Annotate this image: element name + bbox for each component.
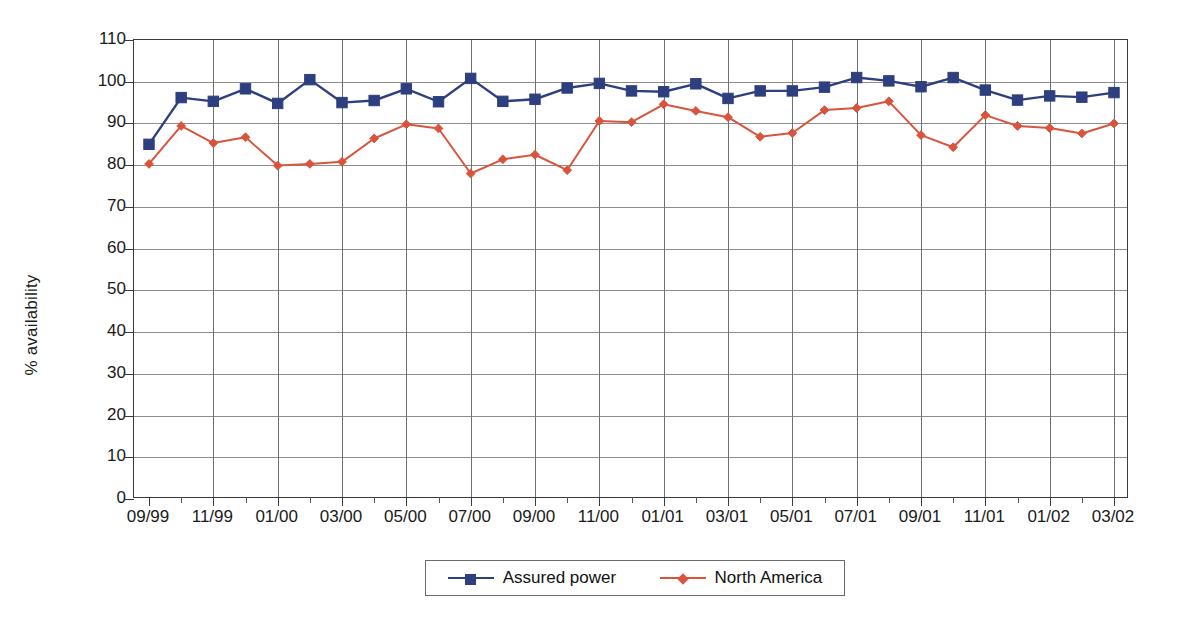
x-axis-tick-labels: 09/9911/9901/0003/0005/0007/0009/0011/00… [0,507,1177,537]
chart-legend: Assured power North America [425,560,845,596]
x-axis-tick-label: 01/01 [641,507,684,527]
data-point-marker [531,150,540,159]
y-axis-title: % availability [22,25,42,225]
data-point-marker [176,92,186,102]
data-point-marker [691,79,701,89]
data-point-marker [980,85,990,95]
y-axis-tick-label: 20 [107,405,126,425]
y-axis-title-label: % availability [22,225,42,425]
y-axis-tick-mark [125,249,134,250]
x-axis-tick-label: 03/01 [706,507,749,527]
x-axis-tick-label: 07/01 [834,507,877,527]
data-point-marker [1045,124,1054,133]
data-point-marker [626,86,636,96]
y-axis-tick-label: 10 [107,446,126,466]
y-axis-tick-mark [125,499,134,500]
data-point-marker [498,155,507,164]
data-point-marker [272,98,282,108]
data-point-marker [627,118,636,127]
x-axis-tick-label: 11/99 [192,507,233,527]
x-axis-tick-label: 11/01 [964,507,1005,527]
y-axis-tick-label: 110 [99,29,126,49]
x-axis-tick-label: 01/00 [255,507,298,527]
data-point-marker [884,76,894,86]
data-point-marker [658,87,668,97]
data-point-marker [1077,92,1087,102]
legend-label-assured-power: Assured power [503,568,616,588]
x-axis-tick-label: 07/00 [448,507,491,527]
data-point-marker [305,160,314,169]
data-point-marker [433,97,443,107]
y-axis-tick-label: 100 [98,71,126,91]
data-point-marker [1013,122,1022,131]
data-point-marker [659,100,668,109]
y-axis-tick-label: 70 [107,196,126,216]
data-point-marker [208,96,218,106]
y-axis-tick-mark [125,457,134,458]
data-point-marker [1044,91,1054,101]
y-axis-tick-mark [125,40,134,41]
x-axis-tick-label: 05/01 [770,507,813,527]
data-point-marker [530,94,540,104]
data-point-marker [562,83,572,93]
legend-entry-north-america: North America [660,568,823,588]
data-point-marker [1077,129,1086,138]
y-axis-tick-mark [125,290,134,291]
data-point-marker [337,97,347,107]
data-point-marker [1109,87,1119,97]
y-axis-tick-mark [125,332,134,333]
y-axis-tick-label: 0 [117,488,126,508]
y-axis-tick-label: 80 [107,154,126,174]
y-axis-tick-label: 30 [107,363,126,383]
data-point-marker [401,84,411,94]
data-point-marker [916,82,926,92]
data-point-marker [465,73,475,83]
data-point-marker [402,120,411,129]
x-axis-tick-label: 03/00 [320,507,363,527]
y-axis-tick-label: 50 [107,279,126,299]
x-axis-tick-label: 09/01 [899,507,942,527]
x-axis-tick-label: 01/02 [1027,507,1070,527]
plot-area [133,39,1128,498]
y-axis-tick-label: 60 [107,238,126,258]
data-point-marker [1110,119,1119,128]
x-axis-tick-label: 11/00 [578,507,619,527]
legend-entry-assured-power: Assured power [448,568,616,588]
y-axis-tick-label: 40 [107,321,126,341]
y-axis-tick-mark [125,374,134,375]
y-axis-tick-mark [125,123,134,124]
data-point-marker [1012,95,1022,105]
data-point-marker [144,139,154,149]
legend-label-north-america: North America [715,568,823,588]
y-axis-tick-mark [125,82,134,83]
data-point-marker [240,84,250,94]
data-point-marker [724,113,733,122]
data-point-marker [819,82,829,92]
y-axis-tick-label: 90 [107,112,126,132]
data-point-marker [594,78,604,88]
data-point-marker [209,139,218,148]
y-axis-tick-mark [125,207,134,208]
x-axis-tick-label: 05/00 [384,507,427,527]
series-plot-layer [134,40,1129,499]
data-point-marker [691,107,700,116]
data-point-marker [756,132,765,141]
legend-marker-square-icon [448,571,494,585]
data-point-marker [305,74,315,84]
y-axis-tick-mark [125,165,134,166]
availability-line-chart: % availability 0102030405060708090100110… [0,0,1177,629]
data-point-marker [851,72,861,82]
series-line-north-america [149,101,1114,173]
data-point-marker [852,104,861,113]
data-point-marker [755,86,765,96]
data-point-marker [498,96,508,106]
x-axis-tick-label: 09/00 [513,507,556,527]
x-axis-tick-label: 03/02 [1092,507,1135,527]
legend-marker-diamond-icon [660,571,706,585]
data-point-marker [787,86,797,96]
x-axis-tick-label: 09/99 [127,507,170,527]
data-point-marker [369,95,379,105]
data-point-marker [723,93,733,103]
data-point-marker [948,72,958,82]
y-axis-tick-mark [125,416,134,417]
